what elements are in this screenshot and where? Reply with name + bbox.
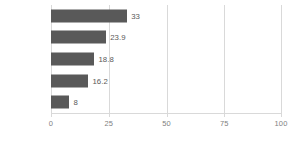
bar-chart: Strongly disagree 33 Somewhat disagree 2…	[0, 0, 294, 141]
bar[interactable]	[51, 96, 69, 109]
bar-value-label: 8	[74, 98, 78, 107]
x-tick-75	[224, 113, 225, 117]
plot-area: Strongly disagree 33 Somewhat disagree 2…	[51, 5, 282, 113]
x-tick-label: 50	[162, 119, 171, 128]
bar[interactable]	[51, 31, 106, 44]
bar-row: Strongly disagree 33	[51, 5, 282, 27]
x-tick-25	[109, 113, 110, 117]
bar-row: Strongly agree 8	[51, 91, 282, 113]
bar-value-label: 33	[131, 11, 140, 20]
x-tick-label: 100	[275, 119, 288, 128]
x-tick-label: 75	[220, 119, 229, 128]
bar-row: Somewhat agree 16.2	[51, 70, 282, 92]
x-tick-label: 25	[104, 119, 113, 128]
x-tick-0	[51, 113, 52, 117]
x-tick-label: 0	[49, 119, 53, 128]
bar[interactable]	[51, 74, 88, 87]
bar-value-label: 16.2	[92, 76, 108, 85]
bar-value-label: 23.9	[110, 33, 126, 42]
bar-value-label: 18.8	[98, 54, 114, 63]
x-tick-50	[167, 113, 168, 117]
bar-row: Neutral 18.8	[51, 48, 282, 70]
bar-row: Somewhat disagree 23.9	[51, 27, 282, 49]
bar[interactable]	[51, 9, 127, 22]
bar[interactable]	[51, 52, 94, 65]
x-tick-100	[281, 113, 282, 117]
